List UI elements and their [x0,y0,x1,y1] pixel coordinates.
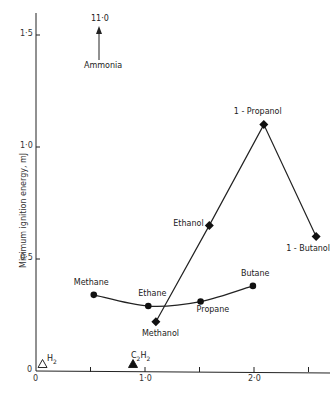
point-label: 1 - Propanol [234,108,282,116]
c2h2-sub2: 2 [146,355,150,362]
y-axis-label: Minimum ignition energy, mJ [20,153,28,268]
y-tick-label: 1·5 [20,30,33,38]
data-markers [38,120,321,367]
alcohol-point [259,120,268,129]
point-label: Propane [197,306,230,314]
point-label: Ethane [138,290,166,298]
y-tick-label: 0·5 [20,254,33,262]
y-ticks [36,35,40,259]
alcohol-point [205,221,214,230]
alkane-curve [94,286,253,306]
c2h2-label: C2H2 [131,352,150,362]
y-tick-label: 1·0 [20,142,33,150]
alkane-point [145,303,152,310]
alcohol-point [151,317,160,326]
point-label: Ethanol [173,220,203,228]
alkane-point [197,298,204,305]
point-label: 1 - Butanol [286,245,330,253]
alkane-point [90,292,97,299]
point-label: Butane [241,270,270,278]
point-label: Methanol [142,330,179,338]
ammonia-value: 11·0 [91,15,109,23]
h2-sub: 2 [53,358,57,365]
x-tick-label: 0 [33,375,38,383]
alcohol-point [312,232,321,241]
ammonia-arrowhead-icon [96,26,102,34]
ammonia-label: Ammonia [84,62,122,70]
x-axis [36,371,330,373]
point-label: Methane [74,279,109,287]
triangle-point [38,360,47,368]
h2-label: H2 [47,355,57,365]
x-tick-label: 1·0 [139,375,152,383]
alkane-point [250,283,257,290]
x-tick-label: 2·0 [248,375,261,383]
y-tick-label: 0 [27,366,32,374]
